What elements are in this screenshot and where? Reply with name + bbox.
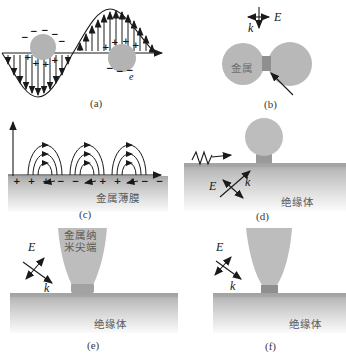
- charge-plus: +: [24, 53, 32, 62]
- electron-label: e: [129, 72, 133, 82]
- panel-b-graphics: [222, 7, 312, 95]
- metal-sphere-right: [268, 42, 312, 86]
- charge-minus: −: [116, 67, 124, 76]
- insulator-label-e: 绝缘体: [94, 320, 127, 331]
- k-vector-label-b: k: [248, 22, 253, 34]
- E-field-label-d: E: [209, 180, 216, 192]
- plasmon-schematic-figure: − − − − − + + + + + + + + − − − e + + + …: [0, 0, 346, 354]
- charge-minus: −: [30, 27, 38, 36]
- nanotip-label-line2: 米尖端: [64, 243, 97, 254]
- charge-minus: −: [21, 33, 29, 42]
- E-field-label-e: E: [28, 241, 35, 253]
- panel-c-graphics: [8, 122, 168, 212]
- field-loops: [28, 145, 146, 175]
- panel-label-f: (f): [265, 341, 276, 352]
- E-field-label-b: E: [274, 11, 281, 23]
- metal-sphere-on-substrate: [245, 118, 283, 156]
- figure-graphics: [0, 0, 346, 354]
- charge-plus: +: [111, 38, 119, 47]
- substrate-top-edge-f: [213, 293, 346, 297]
- charge-plus: +: [42, 60, 50, 69]
- metal-probe-tip: [246, 228, 292, 285]
- nanotip-end: [71, 284, 94, 293]
- photon-arrow: [212, 155, 231, 157]
- charge-minus: −: [106, 64, 114, 73]
- dimer-junction: [262, 56, 271, 71]
- charge-plus: +: [132, 41, 140, 50]
- metal-label: 金属: [231, 64, 253, 75]
- charge-plus: +: [122, 37, 130, 46]
- insulator-substrate-f: [213, 293, 346, 333]
- probe-tip-apex: [261, 285, 278, 293]
- charge-group: − −: [141, 177, 165, 186]
- panel-d-graphics: [184, 118, 346, 211]
- insulator-label-d: 绝缘体: [281, 198, 314, 209]
- charge-group: + + +: [13, 177, 52, 186]
- photon-squiggle: [192, 152, 212, 164]
- k-vector-label-d: k: [245, 176, 250, 188]
- charge-plus: +: [102, 43, 110, 52]
- E-field-label-f: E: [216, 241, 223, 253]
- charge-minus: −: [41, 26, 49, 35]
- charge-minus: −: [58, 37, 66, 46]
- panel-label-c: (c): [79, 209, 91, 220]
- charge-plus: +: [51, 56, 59, 65]
- metal-film-label: 金属薄膜: [96, 194, 140, 205]
- charge-plus: +: [32, 59, 40, 68]
- k-vector-label-e: k: [44, 282, 49, 294]
- nanotip-label-line1: 金属纳: [64, 231, 97, 242]
- k-vector-label-f: k: [230, 280, 235, 292]
- charge-group: − − −: [57, 177, 96, 186]
- insulator-label-f: 绝缘体: [289, 320, 322, 331]
- panel-label-b: (b): [264, 99, 277, 110]
- charge-group: + + +: [99, 177, 138, 186]
- substrate-top-edge-e: [10, 293, 178, 297]
- panel-label-d: (d): [256, 211, 269, 222]
- panel-label-e: (e): [87, 340, 99, 351]
- panel-label-a: (a): [90, 98, 102, 109]
